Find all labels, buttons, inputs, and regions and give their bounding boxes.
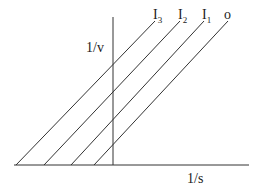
series-label-i3: I3	[153, 8, 162, 25]
series-label-i2: I2	[178, 8, 187, 25]
lineweaver-burk-chart: 1/v 1/s I3 I2 I1 o	[0, 0, 262, 191]
series-lines	[16, 21, 228, 165]
chart-canvas	[0, 0, 262, 191]
y-axis-label: 1/v	[86, 41, 104, 55]
series-line-i2	[44, 21, 180, 165]
series-line-o	[94, 21, 228, 165]
x-axis-label: 1/s	[187, 172, 203, 186]
series-label-i1: I1	[202, 8, 211, 25]
series-label-o: o	[224, 8, 231, 22]
